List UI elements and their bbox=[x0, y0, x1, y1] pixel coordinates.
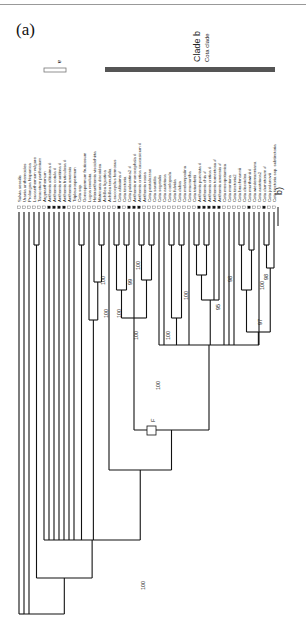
clade-a-label: a bbox=[57, 60, 63, 64]
tip-marker bbox=[223, 206, 226, 209]
bootstrap-value: 100 bbox=[259, 281, 265, 290]
clade-b-bar bbox=[105, 67, 275, 72]
tip-marker bbox=[213, 206, 216, 209]
node-F-label: F bbox=[150, 418, 156, 422]
tip-marker bbox=[68, 206, 71, 209]
tip-marker bbox=[138, 206, 141, 209]
tip-marker bbox=[103, 206, 106, 209]
tip-marker bbox=[118, 206, 121, 209]
tip-marker bbox=[208, 206, 211, 209]
phylogenetic-tree: a Clade b Cota clade b) Salvia sessilisU… bbox=[0, 0, 306, 630]
tip-marker bbox=[233, 206, 236, 209]
tip-marker bbox=[178, 206, 181, 209]
tip-marker bbox=[63, 206, 66, 209]
tip-marker bbox=[183, 206, 186, 209]
clade-b-label: Clade b bbox=[192, 31, 202, 62]
tip-marker bbox=[153, 206, 156, 209]
tip-marker bbox=[218, 206, 221, 209]
tip-marker bbox=[113, 206, 116, 209]
tip-marker bbox=[83, 206, 86, 209]
clade-b-sublabel: Cota clade bbox=[204, 33, 210, 62]
bootstrap-value: 100 bbox=[135, 261, 141, 270]
tip-marker bbox=[228, 206, 231, 209]
bootstrap-value: 100 bbox=[165, 331, 171, 340]
tip-marker bbox=[93, 206, 96, 209]
tip-marker bbox=[58, 206, 61, 209]
tip-marker bbox=[273, 206, 276, 209]
bootstrap-value: 100 bbox=[116, 309, 122, 318]
bootstrap-value: 100 bbox=[183, 291, 189, 300]
tip-marker bbox=[108, 206, 111, 209]
tip-marker bbox=[78, 206, 81, 209]
tip-marker bbox=[268, 206, 271, 209]
tip-marker bbox=[163, 206, 166, 209]
tip-marker bbox=[248, 206, 251, 209]
tip-marker bbox=[53, 206, 56, 209]
tip-marker bbox=[123, 206, 126, 209]
tip-marker bbox=[193, 206, 196, 209]
tip-marker bbox=[133, 206, 136, 209]
bootstrap-value: 99 bbox=[127, 279, 133, 285]
tip-marker bbox=[143, 206, 146, 209]
tip-marker bbox=[158, 206, 161, 209]
tip-marker bbox=[148, 206, 151, 209]
tip-marker bbox=[43, 206, 46, 209]
bootstrap-labels: 1001001009910010010010095981009897100100 bbox=[100, 261, 269, 590]
bootstrap-value: 100 bbox=[100, 276, 106, 285]
tip-marker bbox=[198, 206, 201, 209]
tip-marker bbox=[188, 206, 191, 209]
clade-a-bracket bbox=[44, 68, 66, 72]
tip-marker bbox=[73, 206, 76, 209]
bootstrap-value: 98 bbox=[227, 276, 233, 282]
tip-marker bbox=[253, 206, 256, 209]
tree-branches bbox=[19, 212, 274, 614]
tip-marker bbox=[203, 206, 206, 209]
tip-marker bbox=[38, 206, 41, 209]
tip-marker bbox=[173, 206, 176, 209]
bootstrap-value: 98 bbox=[263, 274, 269, 280]
tip-marker bbox=[168, 206, 171, 209]
bootstrap-value: 100 bbox=[155, 381, 161, 390]
tip-labels: Salvia sessilisUrania anthemoidesProlong… bbox=[17, 142, 277, 208]
tip-marker bbox=[23, 206, 26, 209]
bootstrap-value: 97 bbox=[257, 319, 263, 325]
bootstrap-value: 100 bbox=[133, 331, 139, 340]
tip-marker bbox=[238, 206, 241, 209]
bootstrap-value: 100 bbox=[140, 581, 146, 590]
tip-marker bbox=[258, 206, 261, 209]
tip-marker bbox=[28, 206, 31, 209]
tip-marker bbox=[48, 206, 51, 209]
bootstrap-value: 95 bbox=[215, 304, 221, 310]
tip-label: Cota tinctoria ssp. subtinctoria bbox=[272, 144, 277, 202]
tip-marker bbox=[128, 206, 131, 209]
bootstrap-value: 100 bbox=[103, 309, 109, 318]
node-F-box bbox=[147, 426, 156, 435]
tip-marker bbox=[18, 206, 21, 209]
tip-marker bbox=[33, 206, 36, 209]
tip-marker bbox=[98, 206, 101, 209]
tip-marker bbox=[88, 206, 91, 209]
tip-marker bbox=[263, 206, 266, 209]
tip-marker bbox=[243, 206, 246, 209]
